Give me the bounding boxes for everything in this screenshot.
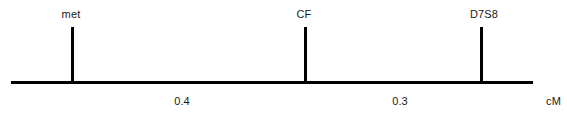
marker-label-met: met: [11, 8, 131, 20]
map-axis-line: [11, 81, 533, 84]
unit-label-cm: cM: [546, 95, 561, 107]
interval-label-met-cf: 0.4: [122, 95, 242, 107]
genetic-linkage-map-figure: met CF D7S8 0.4 0.3 cM: [0, 0, 567, 118]
marker-label-cf: CF: [244, 8, 364, 20]
marker-label-d7s8: D7S8: [424, 8, 544, 20]
marker-tick-cf: [304, 27, 307, 84]
marker-tick-met: [71, 27, 74, 84]
interval-label-cf-d7s8: 0.3: [340, 95, 460, 107]
marker-tick-d7s8: [480, 27, 483, 84]
